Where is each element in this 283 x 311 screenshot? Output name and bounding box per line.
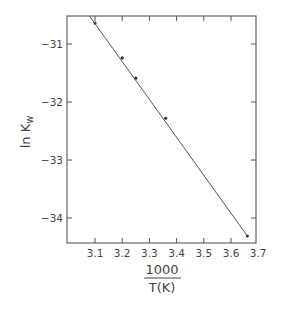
x-axis-label-denominator: T(K): [148, 280, 176, 295]
x-tick-label: 3.1: [87, 247, 104, 259]
data-series: [90, 16, 249, 238]
x-tick-label: 3.7: [250, 247, 267, 259]
x-tick-label: 3.5: [195, 247, 212, 259]
y-tick-label: −31: [41, 38, 63, 50]
y-axis-label: ln Kw: [18, 116, 35, 149]
y-tick-label: −32: [41, 96, 63, 108]
data-point: [164, 117, 167, 120]
x-tick-label: 3.3: [141, 247, 158, 259]
x-tick-label: 3.2: [114, 247, 131, 259]
y-axis-ticks: −31−32−33−34: [41, 38, 256, 224]
y-tick-label: −34: [41, 212, 63, 224]
fit-line: [90, 16, 248, 236]
x-tick-label: 3.4: [168, 247, 185, 259]
data-point: [121, 56, 124, 59]
y-tick-label: −33: [41, 154, 63, 166]
x-axis-label-numerator: 1000: [145, 262, 178, 277]
x-tick-label: 3.6: [223, 247, 240, 259]
ln-kw-vs-inverse-temperature-chart: 3.13.23.33.43.53.63.7 −31−32−33−34 ln Kw…: [0, 0, 283, 311]
